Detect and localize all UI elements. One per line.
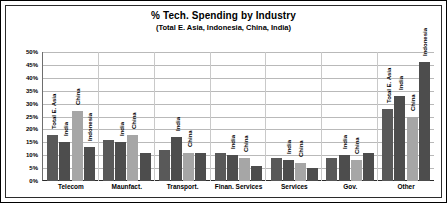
bar: [140, 153, 151, 181]
bar: [419, 62, 430, 181]
bar-slot: Total E. Asia: [382, 52, 393, 181]
bar: [72, 111, 83, 181]
bar-slot: China: [407, 52, 418, 181]
bar-series-label: India: [62, 122, 69, 136]
bar-group: IndiaChina: [266, 52, 322, 181]
bar-slot: [271, 52, 282, 181]
bar: [251, 166, 262, 181]
bar-series-label: China: [75, 89, 82, 106]
x-axis-tick-label: Finan. Services: [211, 183, 267, 190]
bar: [295, 163, 306, 181]
x-axis: TelecomMaunfact.Transport.Finan. Service…: [43, 183, 434, 190]
bar-series-label: India: [286, 140, 293, 154]
bar: [271, 158, 282, 181]
y-axis-tick-label: 15%: [26, 139, 38, 145]
bar: [183, 153, 194, 181]
y-axis-tick-label: 30%: [26, 101, 38, 107]
bar-slot: India: [59, 52, 70, 181]
x-axis-tick-label: Maunfact.: [99, 183, 155, 190]
y-axis: 50%45%40%35%30%25%20%15%10%5%0%: [6, 52, 40, 181]
bar: [326, 158, 337, 181]
bar-series-label: India: [397, 76, 404, 90]
bar-series-label: Total E. Asia: [50, 93, 57, 128]
bar-slot: India: [283, 52, 294, 181]
bar-group: IndiaChina: [211, 52, 267, 181]
bar-group: Total E. AsiaIndiaChinaIndonesia: [43, 52, 99, 181]
bar-slot: [215, 52, 226, 181]
bar-slot: [195, 52, 206, 181]
bar-series-label: Total E. Asia: [385, 67, 392, 102]
chart-subtitle: (Total E. Asia, Indonesia, China, India): [6, 22, 441, 33]
bar: [239, 158, 250, 181]
bar: [307, 168, 318, 181]
bar: [47, 135, 58, 181]
bar-slot: India: [394, 52, 405, 181]
bar-slot: China: [127, 52, 138, 181]
bar: [339, 155, 350, 181]
y-axis-tick-label: 5%: [29, 165, 38, 171]
bar: [195, 153, 206, 181]
y-axis-tick-label: 10%: [26, 152, 38, 158]
bar-group: IndiaChina: [99, 52, 155, 181]
bar: [59, 142, 70, 181]
chart-title-block: % Tech. Spending by Industry (Total E. A…: [6, 10, 441, 33]
bar-series-label: China: [186, 130, 193, 147]
bar: [283, 160, 294, 181]
chart-container: % Tech. Spending by Industry (Total E. A…: [0, 0, 447, 203]
bar: [227, 155, 238, 181]
bar: [363, 153, 374, 181]
y-axis-tick-label: 0%: [29, 178, 38, 184]
bar-series-label: China: [242, 135, 249, 152]
bar-slot: [326, 52, 337, 181]
bar-slot: India: [115, 52, 126, 181]
bar-slot: Indonesia: [419, 52, 430, 181]
y-axis-tick-label: 25%: [26, 114, 38, 120]
bar-series-label: India: [342, 135, 349, 149]
y-axis-tick-label: 50%: [26, 49, 38, 55]
bar-slot: China: [72, 52, 83, 181]
bar-slot: [140, 52, 151, 181]
bar-slot: India: [339, 52, 350, 181]
bar-slot: China: [183, 52, 194, 181]
x-axis-tick-label: Services: [266, 183, 322, 190]
bar: [351, 160, 362, 181]
bar-slot: China: [351, 52, 362, 181]
x-axis-tick-label: Telecom: [43, 183, 99, 190]
bar: [394, 96, 405, 181]
bar-slot: [103, 52, 114, 181]
bar-slot: Indonesia: [84, 52, 95, 181]
bar: [159, 150, 170, 181]
bar-slot: [363, 52, 374, 181]
chart-plot-frame: % Tech. Spending by Industry (Total E. A…: [5, 5, 442, 198]
bar-slot: [159, 52, 170, 181]
bar: [215, 153, 226, 181]
bar-series-label: China: [354, 138, 361, 155]
bar-series-label: India: [174, 117, 181, 131]
y-axis-tick-label: 35%: [26, 88, 38, 94]
bar: [127, 135, 138, 181]
bar: [407, 117, 418, 182]
bar-series-label: India: [230, 135, 237, 149]
bar-slot: [307, 52, 318, 181]
x-axis-tick-label: Other: [378, 183, 434, 190]
bar-slot: China: [239, 52, 250, 181]
bar-series-label: China: [410, 94, 417, 111]
page-title: % Tech. Spending by Industry: [6, 10, 441, 22]
bar-series-label: China: [130, 112, 137, 129]
x-axis-tick-label: Gov.: [322, 183, 378, 190]
bar-slot: India: [171, 52, 182, 181]
bar-series-label: Indonesia: [87, 113, 94, 141]
bar: [84, 147, 95, 181]
x-axis-tick-label: Transport.: [155, 183, 211, 190]
bar: [115, 142, 126, 181]
bar-series-label: India: [118, 122, 125, 136]
bar-group: IndiaChina: [155, 52, 211, 181]
y-axis-tick-label: 20%: [26, 126, 38, 132]
bar-groups: Total E. AsiaIndiaChinaIndonesiaIndiaChi…: [43, 52, 434, 181]
bar-slot: [251, 52, 262, 181]
y-axis-tick-label: 40%: [26, 75, 38, 81]
bar-series-label: China: [298, 140, 305, 157]
bar-slot: Total E. Asia: [47, 52, 58, 181]
bar-slot: China: [295, 52, 306, 181]
bar: [171, 137, 182, 181]
